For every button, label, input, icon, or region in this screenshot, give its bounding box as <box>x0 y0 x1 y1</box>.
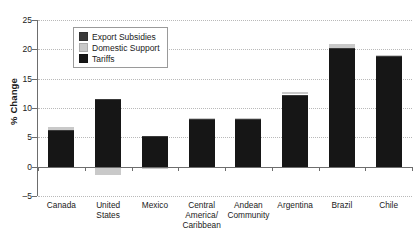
legend-swatch-icon <box>79 54 88 63</box>
y-axis-tick <box>32 167 37 168</box>
bar-segment <box>189 119 215 120</box>
y-axis-tick <box>32 20 37 21</box>
bar-segment <box>235 119 261 120</box>
bar-segment <box>48 130 74 132</box>
bar-segment <box>329 44 355 48</box>
bar-segment <box>282 95 308 97</box>
y-axis-tick-label: –5 <box>0 191 32 201</box>
bar-segment <box>282 92 308 95</box>
bar-segment <box>329 48 355 50</box>
x-axis-tick <box>365 167 366 171</box>
x-axis-tick <box>272 167 273 171</box>
bar-segment <box>376 55 402 57</box>
x-axis-tick <box>178 167 179 171</box>
y-axis-tick <box>32 108 37 109</box>
bar-group <box>376 20 402 196</box>
bar-segment <box>95 100 121 166</box>
gridline <box>38 196 412 197</box>
y-axis-tick-label: 10 <box>0 103 32 113</box>
bar-segment <box>376 57 402 167</box>
legend-swatch-icon <box>79 43 88 52</box>
bar-segment <box>329 49 355 166</box>
bar-segment <box>48 127 74 130</box>
legend-item: Export Subsidies <box>79 31 160 42</box>
legend-label: Export Subsidies <box>92 32 156 42</box>
y-axis-tick-label: 15 <box>0 74 32 84</box>
legend-swatch-icon <box>79 32 88 41</box>
bar-segment <box>189 118 215 119</box>
bar-segment <box>189 120 215 167</box>
legend-item: Domestic Support <box>79 42 160 53</box>
x-axis-tick <box>85 167 86 171</box>
bar-segment <box>48 131 74 166</box>
y-axis-tick <box>32 137 37 138</box>
y-axis-tick-label: 20 <box>0 44 32 54</box>
bar-segment <box>95 99 121 101</box>
legend-item: Tariffs <box>79 53 160 64</box>
bar-group <box>48 20 74 196</box>
bar-segment <box>235 118 261 119</box>
y-axis-tick <box>32 79 37 80</box>
legend-label: Tariffs <box>92 54 115 64</box>
bar-group <box>329 20 355 196</box>
x-axis-tick <box>132 167 133 171</box>
y-axis-tick <box>32 196 37 197</box>
bar-segment <box>142 136 168 137</box>
y-axis-tick-label: 25 <box>0 15 32 25</box>
bar-group <box>189 20 215 196</box>
y-axis-tick <box>32 49 37 50</box>
category-label: Chile <box>361 200 416 210</box>
y-axis-tick-label: 0 <box>0 162 32 172</box>
bar-chart: % Change –50510152025 CanadaUnitedStates… <box>0 0 419 238</box>
bar-group <box>235 20 261 196</box>
bar-segment <box>282 96 308 166</box>
legend-label: Domestic Support <box>92 43 160 53</box>
bar-group <box>282 20 308 196</box>
bar-segment <box>235 120 261 167</box>
bar-segment <box>95 167 121 176</box>
x-axis-tick <box>412 167 413 171</box>
x-axis-tick <box>225 167 226 171</box>
x-axis-tick <box>38 167 39 171</box>
bar-segment <box>376 55 402 56</box>
x-axis-tick <box>319 167 320 171</box>
bar-segment <box>142 137 168 167</box>
chart-legend: Export SubsidiesDomestic SupportTariffs <box>73 27 168 68</box>
y-axis-tick-label: 5 <box>0 132 32 142</box>
